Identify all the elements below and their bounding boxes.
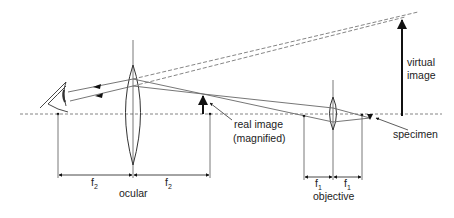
rays-eye-ocular	[68, 79, 133, 101]
virtual-image-label-2: image	[407, 69, 436, 81]
f1-left-label: f1	[315, 177, 322, 191]
real-image-leader	[210, 103, 232, 120]
virtual-rays	[133, 12, 418, 86]
objective-lens	[330, 80, 337, 180]
real-image-label: real image	[234, 118, 283, 130]
f2-left-label: f2	[91, 176, 98, 190]
f2-right-label: f2	[165, 176, 172, 190]
microscope-diagram: virtual image real image (magnified) spe…	[0, 0, 454, 218]
f1-right-label: f1	[344, 177, 351, 191]
ocular-label: ocular	[119, 187, 148, 199]
virtual-image-label: virtual	[407, 56, 435, 68]
eye-icon	[40, 82, 68, 112]
extension-lines	[58, 114, 362, 180]
real-image-label-2: (magnified)	[233, 132, 286, 144]
objective-label: objective	[313, 190, 355, 202]
ocular-lens	[126, 40, 141, 178]
specimen-label: specimen	[393, 128, 438, 140]
